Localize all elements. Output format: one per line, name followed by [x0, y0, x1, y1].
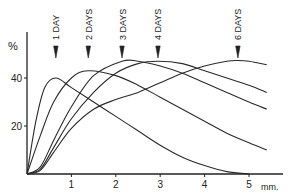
arrow-down-icon — [236, 46, 240, 58]
axes — [27, 32, 283, 174]
x-tick-label: 3 — [157, 179, 163, 190]
y-ticks: 2040 — [11, 73, 27, 132]
annotation-3-days: 3 DAYS — [118, 9, 128, 58]
x-tick-label: 1 — [69, 179, 75, 190]
annotation-2-days: 2 DAYS — [84, 9, 94, 58]
arrow-down-icon — [156, 46, 160, 58]
arrow-down-icon — [120, 46, 124, 58]
y-tick-label: 20 — [11, 121, 23, 132]
y-axis-label: % — [8, 40, 18, 52]
chart: 12345 2040 % mm. 1 DAY2 DAYS3 DAYS4 DAYS… — [0, 0, 297, 194]
x-tick-label: 4 — [202, 179, 208, 190]
annotation-label: 6 DAYS — [233, 9, 243, 40]
arrow-down-icon — [86, 46, 90, 58]
x-ticks: 12345 — [69, 174, 253, 190]
annotation-label: 2 DAYS — [84, 9, 94, 40]
day-annotations: 1 DAY2 DAYS3 DAYS4 DAYS6 DAYS — [51, 9, 243, 58]
curve-4-days — [27, 61, 267, 174]
x-tick-label: 5 — [246, 179, 252, 190]
annotation-label: 4 DAYS — [153, 9, 163, 40]
arrow-down-icon — [54, 46, 58, 58]
y-tick-label: 40 — [11, 73, 23, 84]
annotation-6-days: 6 DAYS — [233, 9, 243, 58]
x-axis-label: mm. — [261, 182, 279, 192]
annotation-4-days: 4 DAYS — [153, 9, 163, 58]
annotation-label: 1 DAY — [51, 15, 61, 40]
annotation-1-day: 1 DAY — [51, 15, 61, 58]
curve-6-days — [27, 60, 267, 174]
annotation-label: 3 DAYS — [118, 9, 128, 40]
x-tick-label: 2 — [113, 179, 119, 190]
curves — [27, 60, 267, 174]
curve-3-days — [27, 60, 267, 174]
